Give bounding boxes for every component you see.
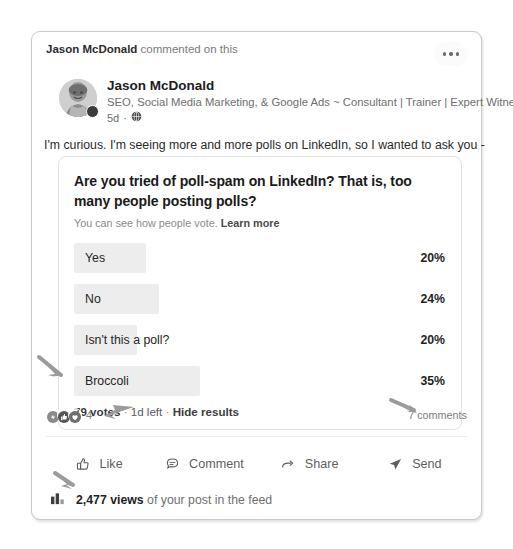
- poll-option[interactable]: Isn't this a poll? 20%: [74, 325, 446, 355]
- poll-option[interactable]: Yes 20%: [74, 243, 446, 273]
- paper-plane-icon: [387, 456, 404, 473]
- poll-option-percent: 20%: [420, 333, 445, 347]
- views-text: 2,477 views of your post in the feed: [76, 493, 272, 507]
- poll-option-label: Isn't this a poll?: [74, 333, 169, 347]
- post-meta: 5d ·: [107, 111, 467, 126]
- poll-visibility-note: You can see how people vote.: [74, 217, 218, 229]
- bar-chart-icon: [50, 491, 67, 510]
- views-count: 2,477 views: [76, 493, 144, 507]
- poll-option-label: Yes: [74, 251, 105, 265]
- comment-count[interactable]: 7 comments: [408, 409, 467, 421]
- thumbs-up-icon: [75, 456, 92, 473]
- avatar[interactable]: [59, 79, 97, 117]
- poll-card: Are you tried of poll-spam on LinkedIn? …: [58, 156, 462, 430]
- author-headline: SEO, Social Media Marketing, & Google Ad…: [107, 94, 467, 110]
- poll-option-percent: 20%: [420, 251, 445, 265]
- poll-question: Are you tried of poll-spam on LinkedIn? …: [74, 171, 446, 211]
- like-button-label: Like: [100, 457, 123, 471]
- like-button[interactable]: Like: [46, 447, 151, 481]
- comment-button[interactable]: Comment: [151, 447, 256, 481]
- meta-separator: ·: [123, 111, 127, 126]
- linkedin-post-card: Jason McDonald commented on this: [31, 31, 482, 520]
- post-context-header: Jason McDonald commented on this: [46, 43, 467, 65]
- avatar-status-badge: [86, 105, 99, 118]
- more-options-icon[interactable]: [434, 42, 468, 66]
- context-action-text: commented on this: [141, 43, 238, 55]
- post-time: 5d: [107, 111, 119, 126]
- post-views-row[interactable]: 2,477 views of your post in the feed: [50, 488, 467, 512]
- poll-learn-more-link[interactable]: Learn more: [221, 217, 280, 229]
- context-actor-name[interactable]: Jason McDonald: [46, 43, 137, 55]
- share-button[interactable]: Share: [257, 447, 362, 481]
- poll-option[interactable]: Broccoli 35%: [74, 366, 446, 396]
- reactions-group[interactable]: 4: [46, 408, 92, 422]
- reaction-count: 4: [86, 409, 92, 421]
- poll-option[interactable]: No 24%: [74, 284, 446, 314]
- actions-divider: [46, 436, 467, 437]
- poll-option-label: No: [74, 292, 101, 306]
- share-arrow-icon: [280, 456, 297, 473]
- share-button-label: Share: [305, 457, 339, 471]
- send-button[interactable]: Send: [362, 447, 467, 481]
- post-action-bar: Like Comment Share: [46, 444, 467, 484]
- speech-bubble-icon: [164, 456, 181, 473]
- poll-subtext: You can see how people vote. Learn more: [74, 216, 446, 231]
- poll-option-percent: 24%: [420, 292, 445, 306]
- poll-option-label: Broccoli: [74, 374, 129, 388]
- social-counts-row: 4 7 comments: [46, 408, 467, 428]
- poll-option-percent: 35%: [420, 374, 445, 388]
- views-suffix: of your post in the feed: [147, 493, 272, 507]
- post-body-text: I'm curious. I'm seeing more and more po…: [44, 136, 469, 154]
- post-author-block: Jason McDonald SEO, Social Media Marketi…: [59, 77, 467, 129]
- author-name[interactable]: Jason McDonald: [107, 77, 467, 94]
- screenshot-root: Jason McDonald commented on this: [0, 0, 513, 549]
- send-button-label: Send: [412, 457, 441, 471]
- globe-icon: [131, 111, 142, 126]
- love-reaction-icon: [68, 408, 82, 422]
- poll-options-list: Yes 20% No 24% Isn't this a poll? 20% Br…: [74, 243, 446, 396]
- comment-button-label: Comment: [189, 457, 244, 471]
